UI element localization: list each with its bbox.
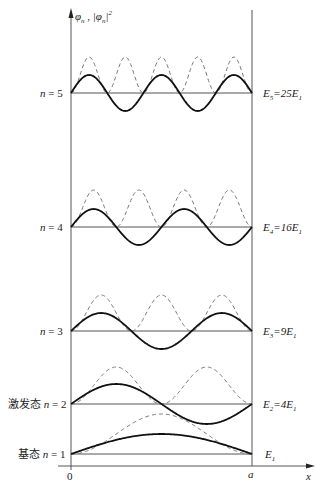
- energy-label-4: E4=16E1: [263, 222, 302, 236]
- energy-label-1: E1: [265, 449, 275, 463]
- origin-label: 0: [67, 471, 73, 482]
- energy-label-5: E5=25E1: [263, 88, 302, 102]
- probability-density-4: [71, 190, 252, 227]
- level-label-3: n = 3: [40, 326, 63, 337]
- wavefunction-1: [71, 434, 252, 454]
- y-axis-label: φn , |φn|2: [75, 10, 112, 25]
- x-axis-arrow-icon: [306, 464, 315, 469]
- level-label-1: 基态 n = 1: [18, 449, 65, 460]
- y-axis-arrow-icon: [69, 8, 74, 18]
- x-axis-label: x: [306, 471, 311, 482]
- level-label-5: n = 5: [40, 88, 63, 99]
- well-diagram: [0, 0, 323, 490]
- wall-label: a: [248, 469, 254, 480]
- energy-label-2: E2=4E1: [263, 399, 296, 413]
- level-label-4: n = 4: [40, 222, 63, 233]
- probability-density-2: [71, 367, 252, 404]
- energy-label-3: E3=9E1: [263, 326, 296, 340]
- level-label-2: 激发态 n = 2: [8, 399, 66, 410]
